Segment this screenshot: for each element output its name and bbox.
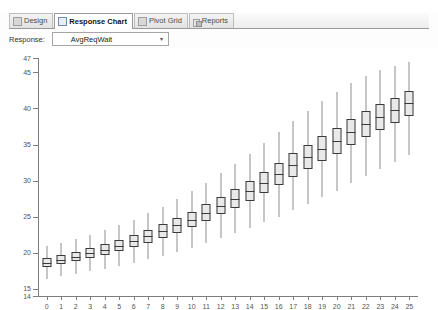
median-line — [86, 253, 95, 254]
median-line — [390, 110, 399, 111]
x-tick — [264, 296, 265, 300]
tab-pivot-grid[interactable]: Pivot Grid — [134, 13, 188, 28]
chart-icon — [58, 17, 67, 26]
x-tick — [279, 296, 280, 300]
design-icon — [13, 17, 22, 26]
x-tick-label: 8 — [161, 303, 165, 310]
x-tick — [250, 296, 251, 300]
x-axis-line — [38, 296, 418, 297]
median-line — [332, 141, 341, 142]
x-tick-label: 11 — [203, 303, 210, 310]
tab-label: Design — [24, 14, 47, 28]
x-tick — [221, 296, 222, 300]
x-tick-label: 15 — [260, 303, 268, 310]
response-dropdown[interactable]: AvgReqWait ▾ — [52, 32, 169, 46]
x-tick-label: 22 — [362, 303, 370, 310]
x-tick-label: 5 — [117, 303, 121, 310]
x-tick — [366, 296, 367, 300]
x-tick — [61, 296, 62, 300]
x-tick — [134, 296, 135, 300]
x-tick — [308, 296, 309, 300]
median-line — [376, 117, 385, 118]
x-tick-label: 4 — [103, 303, 107, 310]
response-label: Response: — [9, 35, 45, 44]
x-tick-label: 7 — [146, 303, 150, 310]
tab-response-chart[interactable]: Response Chart — [54, 13, 133, 29]
median-line — [202, 213, 211, 214]
x-tick — [235, 296, 236, 300]
x-tick — [76, 296, 77, 300]
x-tick — [293, 296, 294, 300]
y-tick-label: 30 — [5, 177, 31, 184]
x-tick — [90, 296, 91, 300]
chevron-down-icon[interactable]: ▾ — [157, 33, 166, 45]
median-line — [231, 199, 240, 200]
median-line — [158, 231, 167, 232]
median-line — [71, 257, 80, 258]
grid-icon — [138, 17, 147, 26]
y-tick-label: 15 — [5, 285, 31, 292]
x-tick — [380, 296, 381, 300]
median-line — [303, 157, 312, 158]
y-tick — [33, 296, 38, 297]
y-tick-label: 35 — [5, 141, 31, 148]
x-tick — [206, 296, 207, 300]
y-tick-label: 40 — [5, 105, 31, 112]
x-tick-label: 12 — [217, 303, 225, 310]
median-line — [42, 263, 51, 264]
median-line — [405, 103, 414, 104]
x-tick — [119, 296, 120, 300]
x-tick — [192, 296, 193, 300]
x-tick-label: 9 — [175, 303, 179, 310]
x-tick — [148, 296, 149, 300]
reports-icon — [193, 18, 200, 25]
x-tick-label: 6 — [132, 303, 136, 310]
tab-reports[interactable]: Reports — [189, 13, 234, 28]
y-tick-label: 45 — [5, 69, 31, 76]
median-line — [216, 206, 225, 207]
tab-design[interactable]: Design — [9, 13, 53, 28]
median-line — [318, 149, 327, 150]
x-tick-label: 13 — [231, 303, 239, 310]
x-tick — [395, 296, 396, 300]
x-tick-label: 23 — [376, 303, 384, 310]
response-dropdown-value: AvgReqWait — [53, 35, 112, 44]
x-tick-label: 25 — [405, 303, 413, 310]
median-line — [115, 246, 124, 247]
x-tick — [409, 296, 410, 300]
x-tick-label: 21 — [347, 303, 355, 310]
tab-label: Pivot Grid — [149, 14, 182, 28]
x-tick — [351, 296, 352, 300]
x-tick — [163, 296, 164, 300]
median-line — [100, 250, 109, 251]
x-tick-label: 19 — [318, 303, 326, 310]
median-line — [129, 241, 138, 242]
y-axis-bottom-label: 14 — [5, 293, 31, 300]
tab-label: Reports — [202, 14, 228, 28]
x-tick-label: 24 — [391, 303, 399, 310]
x-tick-label: 0 — [45, 303, 49, 310]
y-axis-labels: 152025303540454714 — [0, 48, 31, 306]
tab-bar: DesignResponse ChartPivot GridReports — [9, 13, 429, 29]
x-tick — [47, 296, 48, 300]
tab-label: Response Chart — [69, 14, 127, 29]
x-tick-label: 17 — [289, 303, 297, 310]
x-tick — [337, 296, 338, 300]
x-tick-label: 10 — [188, 303, 196, 310]
chart-area: 152025303540454714 012345678910111213141… — [0, 48, 438, 300]
median-line — [361, 124, 370, 125]
x-tick-label: 14 — [246, 303, 254, 310]
response-selector-row: Response: AvgReqWait ▾ — [9, 32, 169, 46]
x-tick-label: 18 — [304, 303, 312, 310]
median-line — [260, 183, 269, 184]
x-tick-label: 16 — [275, 303, 283, 310]
x-tick-label: 20 — [333, 303, 341, 310]
median-line — [347, 132, 356, 133]
median-line — [274, 174, 283, 175]
x-tick — [322, 296, 323, 300]
y-tick-label: 47 — [5, 55, 31, 62]
median-line — [289, 165, 298, 166]
boxplot-series — [38, 58, 418, 296]
x-tick-label: 3 — [88, 303, 92, 310]
